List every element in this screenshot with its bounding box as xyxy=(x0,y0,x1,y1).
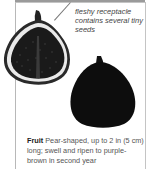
fruit-description: Fruit Pear-shaped, up to 2 in (5 cm) lon… xyxy=(27,136,145,166)
whole-fig-icon xyxy=(70,56,135,128)
description-text: Pear-shaped, up to 2 in (5 cm) long; swe… xyxy=(27,136,144,165)
description-term: Fruit xyxy=(27,136,43,145)
cut-fig-icon xyxy=(4,10,70,85)
annotation-caption: fleshy receptacle contains several tiny … xyxy=(75,7,145,34)
